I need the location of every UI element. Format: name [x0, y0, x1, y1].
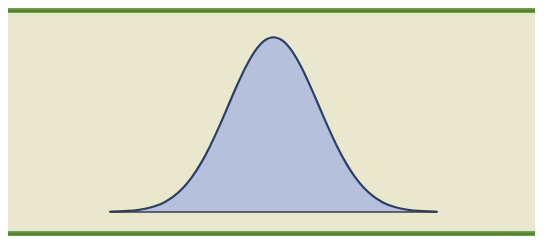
distribution-area-fill: [110, 37, 437, 212]
curve-group: [110, 37, 437, 212]
figure-root: ••••••••••••••••••••••••••••••••••••••••…: [0, 0, 546, 243]
bell-curve-plot: [0, 0, 546, 243]
